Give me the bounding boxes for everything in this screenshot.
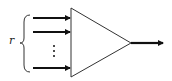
brace-icon — [20, 15, 30, 72]
triangle-block-diagram — [0, 0, 172, 81]
brace-label: r — [9, 34, 14, 47]
ellipsis-dot — [53, 50, 55, 52]
ellipsis-dot — [53, 45, 55, 47]
ellipsis-dot — [53, 55, 55, 57]
triangle-block — [71, 8, 131, 77]
